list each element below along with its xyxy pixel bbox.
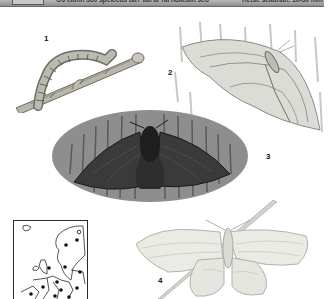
figure-number-3: 3 <box>266 152 270 161</box>
figure-caterpillar: 1 <box>10 38 145 113</box>
figure-green-moth: 4 <box>128 200 332 299</box>
figure-number-1: 1 <box>44 34 48 43</box>
header-text-left: Os cionn 300 speiceas dá'r fáil ar na ho… <box>56 0 209 3</box>
caterpillar-illustration <box>10 38 145 113</box>
header-bar: Os cionn 300 speiceas dá'r fáil ar na ho… <box>0 0 324 7</box>
header-box <box>12 0 44 5</box>
figure-number-2: 2 <box>168 68 172 77</box>
distribution-map <box>13 220 88 299</box>
figure-number-4: 4 <box>158 276 162 285</box>
europe-map-illustration <box>13 220 88 299</box>
figure-dark-moth: 3 <box>52 104 252 204</box>
dark-moth-illustration <box>52 104 252 204</box>
header-text-right: Réise sciathán: 10-30 mm <box>242 0 323 3</box>
